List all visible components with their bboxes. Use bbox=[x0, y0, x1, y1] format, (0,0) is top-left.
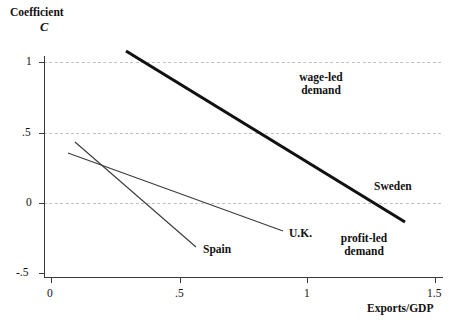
series-label-uk: U.K. bbox=[289, 227, 312, 240]
series-line-spain bbox=[75, 142, 196, 247]
series-label-sweden: Sweden bbox=[374, 180, 412, 193]
series-line-uk bbox=[68, 153, 283, 231]
annotation-wage-led-line2: demand bbox=[277, 84, 365, 97]
y-tick-label-0: 0 bbox=[26, 196, 32, 209]
figure-container: Coefficient C 1 .5 0 -.5 0 .5 1 1.5 bbox=[0, 0, 455, 329]
caption-sliver bbox=[0, 322, 455, 329]
x-tick-label-0: 0 bbox=[47, 287, 53, 300]
y-tick-label-1: 1 bbox=[26, 55, 32, 68]
x-tick-label-1-5: 1.5 bbox=[427, 287, 441, 300]
annotation-wage-led-demand: wage-led demand bbox=[277, 71, 365, 97]
plot-area bbox=[0, 0, 455, 329]
x-axis-title: Exports/GDP bbox=[367, 302, 433, 315]
x-tick-label-1: 1 bbox=[304, 287, 310, 300]
y-tick-label-0-5: .5 bbox=[22, 126, 31, 139]
x-tick-label-0-5: .5 bbox=[175, 287, 184, 300]
annotation-wage-led-line1: wage-led bbox=[277, 71, 365, 84]
annotation-profit-led-line1: profit-led bbox=[320, 232, 408, 245]
series-label-spain: Spain bbox=[203, 243, 231, 256]
annotation-profit-led-demand: profit-led demand bbox=[320, 232, 408, 258]
annotation-profit-led-line2: demand bbox=[320, 245, 408, 258]
y-tick-label-minus-0-5: -.5 bbox=[16, 266, 28, 279]
